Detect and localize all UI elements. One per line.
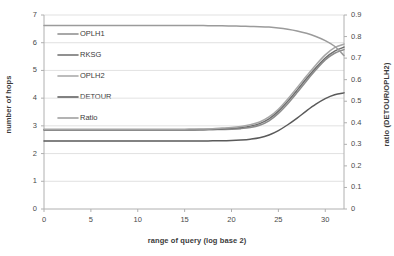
line-chart: number of hops ratio (DETOUR/OPLH2) rang… [0, 0, 394, 256]
series-line-detour [44, 93, 344, 141]
series-line-ratio [44, 26, 344, 56]
series-line-oplh1 [44, 50, 344, 130]
plot-area [0, 0, 394, 256]
